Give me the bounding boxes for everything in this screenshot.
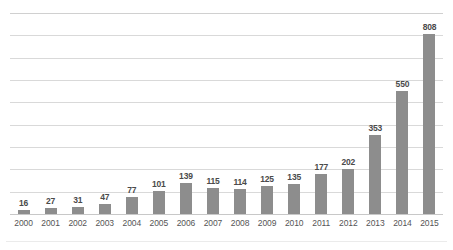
bar-value-label: 808 <box>423 22 437 32</box>
x-axis-category-labels: 2000200120022003200420052006200720082009… <box>10 218 443 234</box>
bar <box>342 169 354 214</box>
bar-group: 202 <box>335 13 362 214</box>
bar-group: 177 <box>308 13 335 214</box>
x-axis-tick-label: 2005 <box>150 218 169 228</box>
x-axis-tick-label: 2012 <box>339 218 358 228</box>
bar <box>234 189 246 214</box>
bar-value-label: 27 <box>46 196 55 206</box>
bar-value-label: 135 <box>287 172 301 182</box>
bar-chart: 1627314777101139115114125135177202353550… <box>0 0 453 250</box>
bar <box>396 91 408 214</box>
bar-value-label: 101 <box>152 179 166 189</box>
bar-group: 353 <box>362 13 389 214</box>
bar-group: 16 <box>10 13 37 214</box>
bar-value-label: 202 <box>341 157 355 167</box>
bars-layer: 1627314777101139115114125135177202353550… <box>10 13 443 214</box>
x-axis-line <box>10 214 443 215</box>
bar-group: 135 <box>281 13 308 214</box>
bar-value-label: 353 <box>369 123 383 133</box>
x-axis-tick-label: 2010 <box>285 218 304 228</box>
x-axis-tick-label: 2014 <box>393 218 412 228</box>
x-axis-tick-label: 2015 <box>420 218 439 228</box>
bar-group: 550 <box>389 13 416 214</box>
bar-group: 115 <box>199 13 226 214</box>
bar <box>126 197 138 214</box>
bar-value-label: 16 <box>19 198 28 208</box>
bar-value-label: 115 <box>206 176 219 186</box>
bar-group: 139 <box>172 13 199 214</box>
bar-value-label: 31 <box>73 195 82 205</box>
bar <box>72 207 84 214</box>
bar <box>315 174 327 214</box>
x-axis-tick-label: 2009 <box>258 218 277 228</box>
bar <box>180 183 192 214</box>
x-axis-tick-label: 2004 <box>123 218 142 228</box>
bar-group: 27 <box>37 13 64 214</box>
bar <box>207 188 219 214</box>
bar-group: 47 <box>91 13 118 214</box>
bar-value-label: 114 <box>233 177 246 187</box>
bar <box>99 204 111 214</box>
x-axis-tick-label: 2008 <box>231 218 250 228</box>
x-axis-tick-label: 2000 <box>14 218 33 228</box>
x-axis-tick-label: 2013 <box>366 218 385 228</box>
bar <box>153 191 165 214</box>
bar-group: 31 <box>64 13 91 214</box>
bar-group: 101 <box>145 13 172 214</box>
bar-group: 125 <box>254 13 281 214</box>
bar-value-label: 47 <box>100 192 109 202</box>
bar <box>369 135 381 214</box>
x-axis-tick-label: 2011 <box>312 218 330 228</box>
bar-value-label: 77 <box>127 185 136 195</box>
bar-group: 114 <box>227 13 254 214</box>
bar-group: 808 <box>416 13 443 214</box>
bar-group: 77 <box>118 13 145 214</box>
bar-value-label: 550 <box>396 79 410 89</box>
bar <box>261 186 273 214</box>
bar <box>45 208 57 214</box>
x-axis-tick-label: 2007 <box>204 218 223 228</box>
x-axis-tick-label: 2006 <box>177 218 196 228</box>
x-axis-tick-label: 2003 <box>95 218 114 228</box>
x-axis-tick-label: 2002 <box>68 218 87 228</box>
bar-value-label: 139 <box>179 171 193 181</box>
x-axis-tick-label: 2001 <box>41 218 60 228</box>
bar <box>18 210 30 214</box>
bar-value-label: 125 <box>260 174 274 184</box>
bottom-rule <box>6 241 447 242</box>
bar-value-label: 177 <box>314 162 328 172</box>
bar <box>423 34 435 214</box>
bar <box>288 184 300 214</box>
